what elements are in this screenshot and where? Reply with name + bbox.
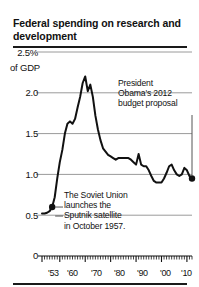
annotation-sputnik-line-3: Sputnik satellite (64, 210, 184, 220)
data-point-obama-budget-point (189, 175, 195, 181)
annotation-sputnik-line-4: in October 1957. (64, 221, 184, 231)
annotation-obama-line-3: budget proposal (118, 98, 198, 108)
annotation-sputnik-line-2: launches the (64, 200, 184, 210)
x-tick-label-00: '00 (160, 268, 171, 278)
y-tick-label-2-5: 2.5% (8, 47, 38, 58)
x-tick-label-60: '60 (67, 268, 78, 278)
chart-figure: Federal spending on research and develop… (0, 0, 199, 287)
y-tick-label-1-0: 1.0 (8, 169, 38, 180)
x-tick-label-70: '70 (91, 268, 102, 278)
annotation-sputnik: The Soviet Union launches the Sputnik sa… (64, 190, 184, 231)
y-tick-label-1-5: 1.5 (8, 128, 38, 139)
y-tick-label-0-5: 0.5 (8, 210, 38, 221)
data-point-sputnik-point (49, 204, 55, 210)
annotation-obama-line-1: President (118, 78, 198, 88)
chart-plot-area (0, 0, 199, 287)
y-tick-label-2-0: 2.0 (8, 87, 38, 98)
x-tick-label-53: '53 (48, 268, 59, 278)
x-tick-label-80: '80 (114, 268, 125, 278)
x-tick-label-10: '10 (181, 268, 192, 278)
bottom-divider (13, 283, 187, 285)
annotation-sputnik-line-1: The Soviet Union (64, 190, 184, 200)
annotation-obama-budget: President Obama's 2012 budget proposal (118, 78, 198, 109)
x-tick-label-90: '90 (137, 268, 148, 278)
y-tick-label-0: 0 (8, 250, 38, 261)
y-axis-unit-label: of GDP (10, 62, 40, 73)
annotation-obama-line-2: Obama's 2012 (118, 88, 198, 98)
